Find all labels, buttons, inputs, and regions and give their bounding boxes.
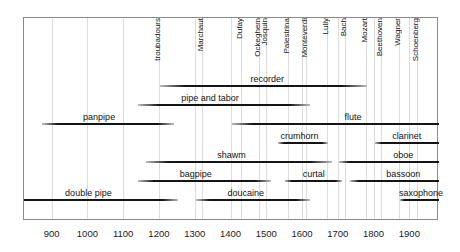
- bar-saxophone: [400, 199, 439, 201]
- bar-curtal: [285, 180, 342, 182]
- x-tick-1700: 1700: [327, 228, 348, 239]
- composer-label-dufay: Dufay: [236, 18, 244, 39]
- composer-label-marchaut: Marchaut: [197, 18, 205, 51]
- bar-crumhorn: [278, 142, 328, 144]
- composer-label-schoenberg: Schoenberg: [412, 18, 420, 61]
- composer-gridline-mozart: [366, 18, 367, 219]
- bar-label-shawm: shawm: [217, 150, 246, 160]
- bar-oboe: [339, 161, 439, 163]
- bar-label-oboe: oboe: [393, 150, 413, 160]
- composer-label-josquin: Josquin: [261, 18, 269, 46]
- bar-label-clarinet: clarinet: [392, 131, 421, 141]
- bar-label-doucaine: doucaine: [228, 188, 265, 198]
- bar-label-pipe-and-tabor: pipe and tabor: [181, 93, 239, 103]
- x-tick-1800: 1800: [363, 228, 384, 239]
- gridline-1100: [123, 18, 124, 219]
- bar-label-saxophone: saxophone: [399, 188, 443, 198]
- x-tick-1900: 1900: [399, 228, 420, 239]
- composer-label-mozart: Mozart: [361, 18, 369, 42]
- bar-panpipe: [42, 123, 174, 125]
- composer-label-palestrina: Palestrina: [283, 18, 291, 54]
- x-tick-1300: 1300: [184, 228, 205, 239]
- x-tick-1100: 1100: [113, 228, 133, 239]
- bar-label-flute: flute: [345, 112, 362, 122]
- x-tick-1400: 1400: [220, 228, 241, 239]
- bar-flute: [232, 123, 440, 125]
- bar-bagpipe: [138, 180, 270, 182]
- gridline-900: [52, 18, 53, 219]
- bar-label-double-pipe: double pipe: [65, 188, 112, 198]
- bar-label-panpipe: panpipe: [83, 112, 115, 122]
- instrument-timeline-chart: recorderpipe and taborpanpipeflutecrumho…: [0, 0, 460, 252]
- gridline-1700: [338, 18, 339, 219]
- bar-label-bassoon: bassoon: [386, 169, 420, 179]
- composer-label-beethoven: Beethoven: [376, 18, 384, 56]
- x-tick-1500: 1500: [256, 228, 277, 239]
- bar-label-recorder: recorder: [251, 74, 285, 84]
- composer-label-wagner: Wagner: [394, 18, 402, 46]
- x-tick-1200: 1200: [148, 228, 169, 239]
- bar-label-crumhorn: crumhorn: [280, 131, 318, 141]
- bar-bassoon: [350, 180, 439, 182]
- composer-gridline-josquin: [266, 18, 267, 219]
- bar-shawm: [146, 161, 332, 163]
- bar-doucaine: [196, 199, 310, 201]
- bar-recorder: [160, 85, 368, 87]
- bar-pipe-and-tabor: [138, 104, 310, 106]
- x-tick-900: 900: [44, 228, 60, 239]
- bar-clarinet: [375, 142, 439, 144]
- composer-label-monteverdi: Monteverdi: [301, 18, 309, 58]
- bar-label-curtal: curtal: [303, 169, 325, 179]
- x-tick-1600: 1600: [291, 228, 312, 239]
- bar-double-pipe: [24, 199, 178, 201]
- composer-label-troubadours: troubadours: [154, 18, 162, 61]
- composer-label-bach: Bach: [340, 18, 348, 36]
- composer-label-lully: Lully: [322, 18, 330, 34]
- bar-label-bagpipe: bagpipe: [180, 169, 212, 179]
- x-tick-1000: 1000: [77, 228, 98, 239]
- composer-gridline-lully: [327, 18, 328, 219]
